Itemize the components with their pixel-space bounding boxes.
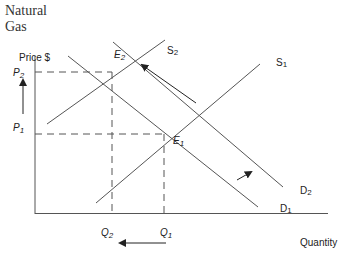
price-label-p1: P1: [13, 122, 24, 135]
quantity-label-q2: Q2: [101, 227, 114, 240]
curve-label-d1: D1: [280, 203, 292, 215]
curve-label-s1: S1: [276, 57, 288, 69]
quantity-label-q1: Q1: [160, 227, 172, 240]
demand-shift-arrow: [237, 172, 251, 180]
supply-demand-diagram: Price $ Quantity P2 P1 Q2 Q1 E2 E1 S2 S1…: [0, 0, 346, 256]
supply-curve-s2: [47, 40, 165, 124]
curve-label-d2: D2: [300, 185, 312, 197]
price-label-p2: P2: [13, 67, 25, 80]
supply-shift-arrow: [142, 65, 196, 103]
x-axis-label: Quantity: [300, 237, 337, 248]
curve-label-s2: S2: [167, 45, 179, 57]
equilibrium-label-e1: E1: [173, 135, 184, 148]
demand-curve-d2: [113, 42, 283, 187]
y-axis-label: Price $: [19, 52, 51, 63]
demand-curve-d1: [68, 56, 258, 207]
